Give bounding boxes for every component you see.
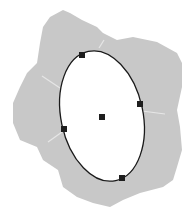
handle-top[interactable] (79, 52, 85, 58)
diagram-canvas (0, 0, 194, 212)
handle-right[interactable] (137, 101, 143, 107)
handle-center[interactable] (99, 114, 105, 120)
handle-bottom[interactable] (119, 175, 125, 181)
handle-left[interactable] (61, 126, 67, 132)
